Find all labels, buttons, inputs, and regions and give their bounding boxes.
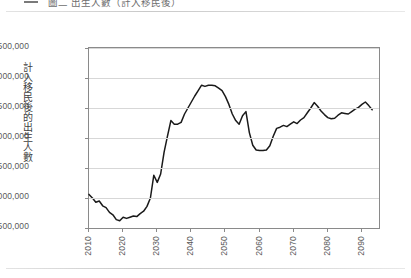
grid-line	[89, 48, 379, 49]
grid-line	[89, 108, 379, 109]
x-axis-tick-mark	[259, 228, 260, 232]
x-axis-tick-label: 2020	[117, 236, 127, 256]
line-chart-plot-area	[88, 47, 380, 229]
grid-line	[89, 198, 379, 199]
y-axis-tick-mark	[85, 138, 89, 139]
page-root: 圖二 出生人數（計入移民後） 計入移民後的出生人數 5,500,0005,000…	[0, 0, 411, 278]
y-axis-tick-label: 3,000,000	[0, 191, 29, 201]
x-axis-tick-mark	[156, 228, 157, 232]
x-axis-tick-label: 2060	[254, 236, 264, 256]
footer-divider	[6, 268, 405, 269]
dash-icon	[24, 1, 38, 3]
y-axis-tick-mark	[85, 108, 89, 109]
document-header: 圖二 出生人數（計入移民後）	[0, 0, 411, 10]
grid-line	[89, 168, 379, 169]
x-axis-tick-mark	[88, 228, 89, 232]
x-axis-tick-label: 2090	[356, 236, 366, 256]
x-axis-tick-mark	[224, 228, 225, 232]
page-title: 圖二 出生人數（計入移民後）	[48, 0, 181, 9]
y-axis-tick-label: 3,500,000	[0, 161, 29, 171]
grid-line	[89, 78, 379, 79]
y-axis-tick-label: 5,000,000	[0, 71, 29, 81]
y-axis-tick-mark	[85, 78, 89, 79]
header-divider	[6, 11, 405, 12]
x-axis-tick-mark	[327, 228, 328, 232]
x-axis-tick-mark	[361, 228, 362, 232]
y-axis-tick-mark	[85, 198, 89, 199]
y-axis-tick-label: 2,500,000	[0, 221, 29, 231]
y-axis-tick-label: 4,500,000	[0, 101, 29, 111]
x-axis-tick-label: 2010	[83, 236, 93, 256]
x-axis-tick-mark	[122, 228, 123, 232]
x-axis-tick-mark	[293, 228, 294, 232]
y-axis-tick-mark	[85, 48, 89, 49]
x-axis-tick-label: 2050	[219, 236, 229, 256]
x-axis-tick-label: 2040	[185, 236, 195, 256]
grid-line	[89, 138, 379, 139]
y-axis-tick-mark	[85, 168, 89, 169]
y-axis-tick-label: 4,000,000	[0, 131, 29, 141]
x-axis-tick-mark	[190, 228, 191, 232]
x-axis-tick-label: 2080	[322, 236, 332, 256]
y-axis-tick-label: 5,500,000	[0, 41, 29, 51]
x-axis-tick-label: 2070	[288, 236, 298, 256]
x-axis-tick-label: 2030	[151, 236, 161, 256]
